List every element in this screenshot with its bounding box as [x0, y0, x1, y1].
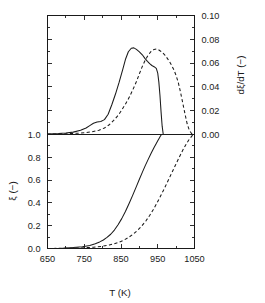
- chart-figure: 0.000.020.040.060.080.10 0.00.20.40.60.8…: [0, 0, 265, 303]
- x-tick-label: 850: [113, 254, 128, 264]
- dashed-derivative-curve: [48, 49, 194, 134]
- upper-ytick-label: 0.10: [202, 11, 220, 21]
- lower-panel-ticks: [48, 135, 195, 249]
- lower-ytick-label: 1.0: [28, 130, 41, 140]
- lower-panel-frame: [48, 135, 195, 249]
- lower-ytick-label: 0.0: [28, 244, 41, 254]
- x-axis-title: T (K): [109, 287, 131, 298]
- lower-ytick-label: 0.8: [28, 153, 41, 163]
- solid-derivative-curve: [48, 48, 164, 135]
- x-tick-label: 650: [40, 254, 55, 264]
- x-axis-tick-labels: 6507508509501050: [40, 254, 205, 264]
- upper-panel-ytick-labels: 0.000.020.040.060.080.10: [202, 11, 220, 140]
- solid-conversion-curve: [48, 135, 162, 249]
- lower-panel-ytick-labels: 0.00.20.40.60.81.0: [28, 130, 41, 254]
- upper-ytick-label: 0.06: [202, 58, 220, 68]
- lower-ytick-label: 0.4: [28, 198, 41, 208]
- upper-panel-curves: [48, 48, 194, 135]
- right-y-axis-title: dξ/dT (−): [235, 56, 246, 95]
- x-tick-label: 750: [77, 254, 92, 264]
- dashed-conversion-curve: [48, 135, 194, 249]
- chart-canvas: 0.000.020.040.060.080.10 0.00.20.40.60.8…: [0, 0, 265, 303]
- lower-ytick-label: 0.2: [28, 221, 41, 231]
- lower-panel-curves: [48, 135, 194, 249]
- left-y-axis-title: ξ (−): [7, 181, 18, 200]
- upper-ytick-label: 0.08: [202, 35, 220, 45]
- x-tick-label: 950: [150, 254, 165, 264]
- upper-ytick-label: 0.00: [202, 130, 220, 140]
- x-tick-label: 1050: [184, 254, 204, 264]
- upper-ytick-label: 0.04: [202, 82, 220, 92]
- upper-ytick-label: 0.02: [202, 106, 220, 116]
- lower-ytick-label: 0.6: [28, 175, 41, 185]
